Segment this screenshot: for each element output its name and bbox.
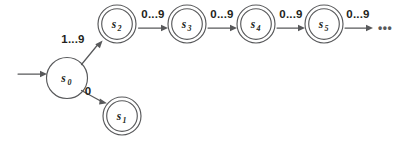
edge-label-s0-to-s2: 1...9 [61,33,84,45]
arrow-head-start-arrow [40,71,47,77]
state-s3-label-subscript: 3 [187,24,192,33]
edge-label-s4-to-s5: 0...9 [279,8,302,20]
state-s5-label: s [318,18,324,30]
state-s3[interactable]: s 3 [168,5,206,43]
edge-label-s3-to-s4: 0...9 [210,8,233,20]
state-s1[interactable]: s 1 [103,97,141,135]
state-s2-label: s [111,18,117,30]
state-s0[interactable]: s 0 [47,58,88,99]
arrow-head-s0-to-s1 [99,99,107,105]
state-s3-label: s [181,18,187,30]
transition-s3-to-s4 [208,25,237,31]
state-s4-label-subscript: 4 [256,24,261,33]
state-s5-label-subscript: 5 [325,24,329,33]
state-s0-label-subscript: 0 [68,78,72,87]
state-s1-label: s [116,110,122,122]
continuation-ellipsis: ••• [378,21,392,35]
transition-s2-to-s3 [139,25,169,31]
fsa-diagram: s 0 s 1 s 2 s 3 s 4 [0,0,400,146]
state-s2[interactable]: s 2 [98,5,136,43]
state-s0-label: s [60,72,66,84]
transition-start-arrow [18,71,47,77]
arrow-head-s5-to-more [366,25,373,31]
state-s1-label-subscript: 1 [123,116,127,125]
state-s4-label: s [250,18,256,30]
arrow-head-s3-to-s4 [230,25,237,31]
edge-label-s5-to-more: 0...9 [346,8,369,20]
state-s4[interactable]: s 4 [237,5,275,43]
arrow-head-s4-to-s5 [298,25,305,31]
state-s2-label-subscript: 2 [117,24,122,33]
fsa-canvas: s 0 s 1 s 2 s 3 s 4 [0,0,400,146]
arrow-head-s2-to-s3 [161,25,168,31]
transition-s4-to-s5 [277,25,305,31]
transition-s5-to-more [345,25,373,31]
edge-label-s2-to-s3: 0...9 [141,8,164,20]
edge-line-s0-to-s2 [82,45,98,65]
state-s5[interactable]: s 5 [305,5,343,43]
edge-label-s0-to-s1: 0 [85,85,92,97]
